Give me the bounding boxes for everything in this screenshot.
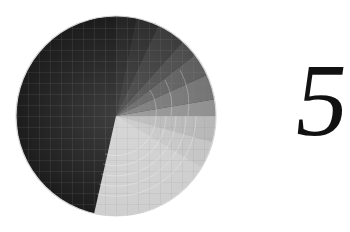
countdown-dial [0,0,240,232]
dial-face [0,0,240,232]
countdown-number: 5 [284,40,350,160]
